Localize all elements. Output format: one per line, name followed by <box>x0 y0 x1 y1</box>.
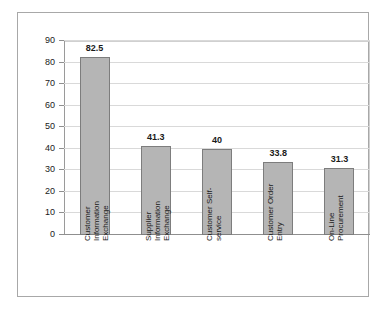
x-axis-label-line: service <box>214 171 223 241</box>
x-axis-label-line: Information <box>153 171 162 241</box>
chart-container: 9080706050403020100 82.541.34033.831.3 C… <box>17 12 369 297</box>
x-axis-label-line: Exchange <box>101 171 110 241</box>
bar-value-label: 41.3 <box>126 133 186 142</box>
y-tick-label-30: 30 <box>31 165 55 174</box>
x-axis-label-line: Information <box>92 171 101 241</box>
y-tick-mark-50 <box>59 126 64 127</box>
y-tick-mark-10 <box>59 212 64 213</box>
x-axis-category-label: On-LineProcurement <box>327 171 341 241</box>
x-axis-label-line: Procurement <box>336 171 345 241</box>
x-axis-category-label: Customer Self-service <box>205 171 219 241</box>
y-tick-mark-60 <box>59 105 64 106</box>
bar-value-label: 31.3 <box>309 155 369 164</box>
x-axis-label-line: Customer Order <box>266 171 275 241</box>
x-axis-label-line: Customer Self- <box>205 171 214 241</box>
y-tick-label-0: 0 <box>31 230 55 239</box>
y-tick-label-70: 70 <box>31 79 55 88</box>
y-tick-mark-70 <box>59 83 64 84</box>
x-axis-label-line: Entry <box>275 171 284 241</box>
y-tick-label-60: 60 <box>31 101 55 110</box>
x-axis-category-label: SupplierInformationExchange <box>144 171 158 241</box>
y-tick-mark-90 <box>59 40 64 41</box>
bar-value-label: 33.8 <box>248 149 308 158</box>
x-axis-label-line: Exchange <box>162 171 171 241</box>
bar-value-label: 40 <box>187 136 247 145</box>
x-axis-category-label: Customer OrderEntry <box>266 171 280 241</box>
x-axis-category-label: CustomerInformationExchange <box>83 171 97 241</box>
y-tick-label-80: 80 <box>31 58 55 67</box>
y-tick-label-40: 40 <box>31 144 55 153</box>
x-axis-label-line: Customer <box>83 171 92 241</box>
bar-value-label: 82.5 <box>65 44 125 53</box>
y-tick-mark-30 <box>59 169 64 170</box>
y-tick-mark-0 <box>59 234 64 235</box>
gridline-90 <box>64 40 370 41</box>
y-tick-mark-20 <box>59 191 64 192</box>
y-tick-label-10: 10 <box>31 208 55 217</box>
y-tick-label-90: 90 <box>31 36 55 45</box>
y-tick-label-20: 20 <box>31 187 55 196</box>
x-axis-label-line: Supplier <box>144 171 153 241</box>
y-tick-mark-80 <box>59 62 64 63</box>
y-tick-mark-40 <box>59 148 64 149</box>
y-tick-label-50: 50 <box>31 122 55 131</box>
